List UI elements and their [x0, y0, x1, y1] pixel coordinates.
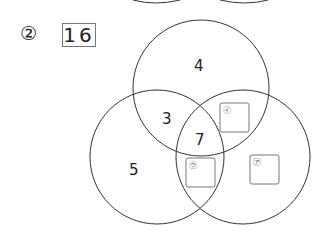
venn-diagram: 4 3 7 5 ㋑ ㋒ ㋐: [0, 0, 326, 236]
region-left-only: 5: [129, 161, 139, 179]
region-left-top: 3: [162, 110, 172, 128]
region-top-only: 4: [194, 57, 204, 75]
region-center: 7: [195, 131, 205, 149]
question-number: ②: [20, 22, 37, 44]
circle-left: [90, 90, 224, 224]
answer-box[interactable]: 16: [62, 23, 96, 47]
circle-right: [176, 90, 310, 224]
blank-label-i: ㋑: [223, 106, 231, 115]
prev-circle-arc-right: [220, 0, 268, 3]
prev-circle-arc-left: [133, 0, 180, 3]
blank-label-u: ㋒: [189, 161, 197, 170]
blank-label-a: ㋐: [253, 158, 261, 167]
